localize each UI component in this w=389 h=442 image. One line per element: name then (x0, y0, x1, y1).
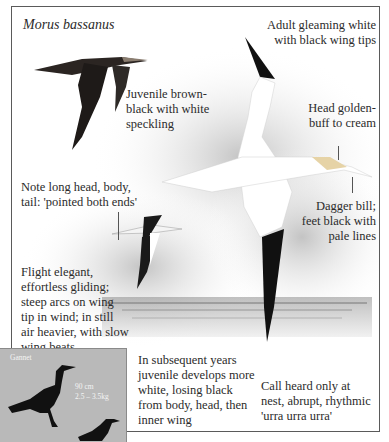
shape-leader-line (118, 212, 119, 240)
size-comparison-box: Gannet 90 cm 2.5 – 3.5kg (0, 348, 127, 442)
shape-annotation: Note long head, body, tail: 'pointed bot… (21, 180, 137, 210)
juvenile-annotation: Juvenile brown- black with white speckli… (126, 87, 209, 132)
call-annotation: Call heard only at nest, abrupt, rhythmi… (261, 379, 371, 424)
flight-annotation: Flight elegant, effortless gliding; stee… (21, 265, 129, 355)
bill-leader-line (352, 177, 353, 193)
adult-annotation: Adult gleaming white with black wing tip… (267, 18, 376, 48)
gannet-silhouette-icon (0, 349, 126, 442)
scientific-name: Morus bassanus (23, 17, 114, 32)
head-annotation: Head golden- buff to cream (308, 101, 376, 131)
bill-annotation: Dagger bill; feet black with pale lines (302, 199, 376, 244)
head-leader-line (338, 146, 339, 160)
subsequent-years-annotation: In subsequent years juvenile develops mo… (138, 353, 255, 428)
